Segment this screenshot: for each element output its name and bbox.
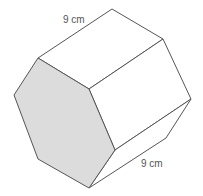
top-edge-label: 9 cm [63, 14, 85, 25]
hexagonal-prism-diagram: 9 cm 9 cm [0, 0, 203, 196]
bottom-edge-label: 9 cm [141, 158, 163, 169]
